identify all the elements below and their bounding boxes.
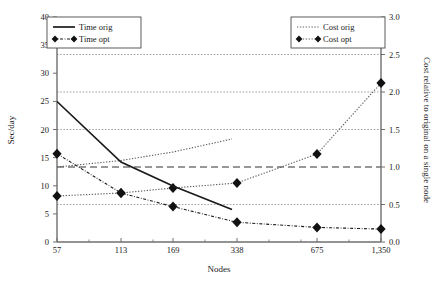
legend-label-time-orig: Time orig [79, 22, 113, 32]
y2-tick-25: 2.5 [389, 50, 400, 60]
chart-figure: 0 5 10 15 20 25 30 35 40 Sec/day 0.0 0.5… [0, 0, 435, 287]
y2-tick-05: 0.5 [389, 200, 400, 210]
y-tick-25: 25 [41, 96, 50, 106]
y-tick-5: 5 [45, 209, 49, 219]
y-tick-20: 20 [41, 125, 50, 135]
x-tick-57: 57 [53, 245, 62, 255]
legend-label-time-opt: Time opt [79, 34, 110, 44]
x-tick-1350: 1,350 [371, 245, 390, 255]
legend-left[interactable]: Time orig Time opt [47, 17, 141, 48]
y-tick-0: 0 [45, 237, 49, 247]
y2-tick-10: 1.0 [389, 162, 400, 172]
chart-svg: 0 5 10 15 20 25 30 35 40 Sec/day 0.0 0.5… [0, 0, 435, 287]
x-tick-675: 675 [311, 245, 324, 255]
y2-tick-0: 0.0 [389, 237, 400, 247]
y2-tick-20: 2.0 [389, 87, 400, 97]
legend-label-cost-opt: Cost opt [323, 34, 352, 44]
legend-right[interactable]: Cost orig Cost opt [291, 17, 385, 48]
x-axis-title: Nodes [208, 264, 231, 274]
x-tick-169: 169 [167, 245, 180, 255]
y-tick-15: 15 [41, 153, 50, 163]
y-tick-10: 10 [41, 181, 50, 191]
x-tick-113: 113 [115, 245, 127, 255]
y-tick-30: 30 [41, 68, 50, 78]
y-axis-title: Sec/day [6, 115, 16, 144]
y2-tick-30: 3.0 [389, 12, 400, 22]
x-tick-338: 338 [231, 245, 244, 255]
y2-axis-title: Cost relative to original on a single no… [422, 57, 432, 203]
legend-label-cost-orig: Cost orig [323, 22, 355, 32]
y2-tick-15: 1.5 [389, 125, 400, 135]
